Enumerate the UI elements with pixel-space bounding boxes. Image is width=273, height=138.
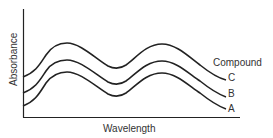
legend-title: Compound — [213, 57, 262, 68]
curve-c — [23, 43, 226, 80]
series-label-b: B — [228, 88, 235, 99]
series-label-a: A — [228, 103, 235, 114]
x-axis-label: Wavelength — [103, 123, 155, 134]
y-axis-label: Absorbance — [8, 32, 19, 86]
series-label-c: C — [228, 72, 235, 83]
absorbance-chart: Absorbance Wavelength Compound C B A — [0, 0, 273, 138]
